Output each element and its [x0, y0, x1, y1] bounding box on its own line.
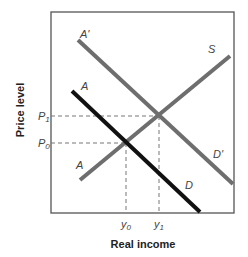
tick-p1: P1 — [38, 110, 50, 124]
tick-y0: y0 — [120, 218, 132, 232]
label-a-demand: A — [80, 80, 88, 92]
label-a-prime: A' — [79, 28, 90, 40]
tick-p0: P0 — [38, 137, 50, 151]
y-axis-label: Price level — [14, 83, 26, 137]
tick-y1: y1 — [153, 218, 164, 232]
demand-curve — [72, 91, 200, 212]
label-d-prime: D' — [213, 148, 224, 160]
ad-as-diagram: A' D' A D A S P1 P0 y0 y1 Real income Pr… — [0, 0, 248, 257]
x-axis-label: Real income — [111, 238, 176, 250]
label-a-supply: A — [75, 159, 83, 171]
label-s: S — [208, 43, 216, 55]
label-d: D — [185, 179, 193, 191]
